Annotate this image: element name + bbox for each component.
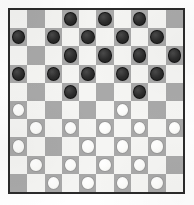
board-square[interactable] [79, 28, 96, 46]
board-square[interactable] [166, 119, 183, 137]
board-square[interactable] [96, 101, 113, 119]
white-piece[interactable] [12, 139, 25, 153]
board-square[interactable] [131, 10, 148, 28]
white-piece[interactable] [64, 158, 77, 172]
black-piece[interactable] [150, 67, 163, 81]
white-piece[interactable] [29, 158, 42, 172]
board-square[interactable] [62, 137, 79, 155]
board-square[interactable] [10, 119, 27, 137]
board-square[interactable] [79, 174, 96, 192]
black-piece[interactable] [133, 48, 146, 62]
black-piece[interactable] [64, 48, 77, 62]
black-piece[interactable] [64, 12, 77, 26]
board-square[interactable] [62, 156, 79, 174]
white-piece[interactable] [150, 176, 163, 190]
black-piece[interactable] [98, 12, 112, 26]
board-square[interactable] [114, 46, 131, 64]
black-piece[interactable] [12, 30, 25, 44]
board-square[interactable] [27, 101, 44, 119]
board-square[interactable] [131, 28, 148, 46]
board-square[interactable] [10, 174, 27, 192]
board-square[interactable] [148, 156, 165, 174]
board-square[interactable] [114, 83, 131, 101]
board-square[interactable] [148, 65, 165, 83]
board-square[interactable] [62, 10, 79, 28]
board-square[interactable] [96, 137, 113, 155]
board-square[interactable] [45, 28, 62, 46]
board-square[interactable] [148, 137, 165, 155]
white-piece[interactable] [47, 176, 60, 190]
board-square[interactable] [96, 174, 113, 192]
board-square[interactable] [114, 119, 131, 137]
board-square[interactable] [10, 28, 27, 46]
board-square[interactable] [96, 10, 113, 28]
board-square[interactable] [96, 156, 113, 174]
board-square[interactable] [96, 65, 113, 83]
board-square[interactable] [27, 65, 44, 83]
board-square[interactable] [79, 83, 96, 101]
board-square[interactable] [166, 83, 183, 101]
white-piece[interactable] [150, 139, 163, 153]
board-square[interactable] [62, 174, 79, 192]
white-piece[interactable] [116, 103, 129, 117]
board-square[interactable] [62, 119, 79, 137]
board-square[interactable] [79, 46, 96, 64]
board-square[interactable] [148, 174, 165, 192]
black-piece[interactable] [64, 85, 77, 99]
board-square[interactable] [148, 83, 165, 101]
board-square[interactable] [148, 10, 165, 28]
board-square[interactable] [79, 65, 96, 83]
board-square[interactable] [131, 65, 148, 83]
board-square[interactable] [96, 28, 113, 46]
board-square[interactable] [114, 28, 131, 46]
black-piece[interactable] [133, 85, 146, 99]
board-square[interactable] [148, 119, 165, 137]
board-square[interactable] [45, 46, 62, 64]
white-piece[interactable] [133, 121, 146, 135]
board-square[interactable] [10, 101, 27, 119]
board-square[interactable] [166, 28, 183, 46]
board-square[interactable] [10, 65, 27, 83]
black-piece[interactable] [47, 67, 60, 81]
board-square[interactable] [166, 46, 183, 64]
board-square[interactable] [27, 174, 44, 192]
board-square[interactable] [131, 156, 148, 174]
board-square[interactable] [114, 10, 131, 28]
board-square[interactable] [45, 119, 62, 137]
board-square[interactable] [79, 10, 96, 28]
white-piece[interactable] [29, 121, 42, 135]
white-piece[interactable] [81, 139, 94, 153]
board-square[interactable] [79, 137, 96, 155]
board-square[interactable] [10, 137, 27, 155]
white-piece[interactable] [168, 121, 181, 135]
board-square[interactable] [27, 83, 44, 101]
board-square[interactable] [166, 65, 183, 83]
board-square[interactable] [10, 46, 27, 64]
white-piece[interactable] [64, 121, 77, 135]
white-piece[interactable] [133, 158, 146, 172]
board-square[interactable] [131, 174, 148, 192]
board-square[interactable] [10, 83, 27, 101]
board-square[interactable] [148, 101, 165, 119]
board-square[interactable] [96, 46, 113, 64]
black-piece[interactable] [81, 67, 94, 81]
black-piece[interactable] [116, 67, 129, 81]
white-piece[interactable] [12, 103, 25, 117]
board-square[interactable] [79, 156, 96, 174]
black-piece[interactable] [150, 30, 163, 44]
board-square[interactable] [114, 65, 131, 83]
white-piece[interactable] [81, 176, 94, 190]
white-piece[interactable] [116, 176, 129, 190]
board-square[interactable] [45, 101, 62, 119]
board-square[interactable] [114, 174, 131, 192]
board-square[interactable] [62, 101, 79, 119]
board-square[interactable] [45, 174, 62, 192]
board-square[interactable] [27, 119, 44, 137]
board-square[interactable] [131, 101, 148, 119]
white-piece[interactable] [98, 121, 112, 135]
board-square[interactable] [62, 46, 79, 64]
board-square[interactable] [114, 156, 131, 174]
board-square[interactable] [148, 28, 165, 46]
board-square[interactable] [45, 137, 62, 155]
black-piece[interactable] [81, 30, 94, 44]
